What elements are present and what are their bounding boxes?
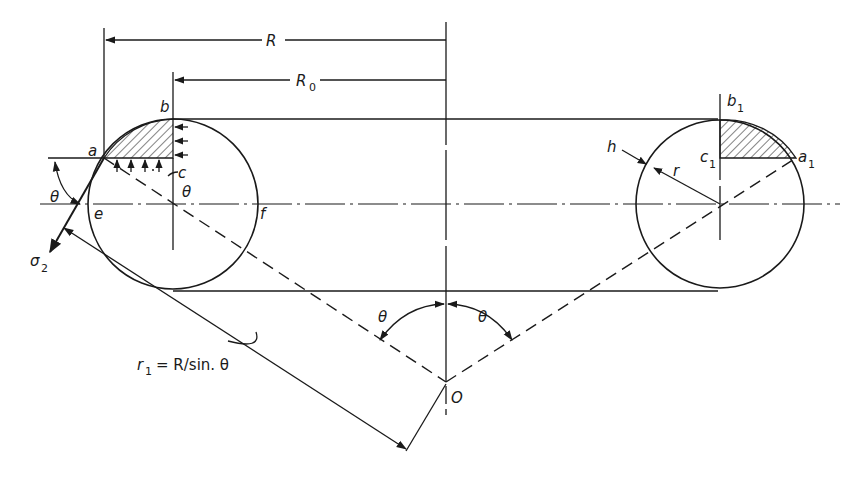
dimension-R0: R 0: [173, 72, 446, 119]
label-h: h: [607, 138, 617, 156]
label-R0-sub: 0: [309, 81, 316, 94]
label-theta-left: θ: [50, 188, 59, 206]
label-r1-sub: 1: [145, 365, 152, 378]
label-O: O: [451, 389, 463, 407]
label-R0: R: [296, 72, 306, 90]
hatched-region-a1b1c1: [720, 120, 796, 158]
radius-r-arrow: [654, 168, 720, 204]
label-a: a: [88, 142, 97, 160]
label-b: b: [160, 98, 170, 116]
hatched-region-abc: [104, 119, 173, 158]
dimension-r1: [64, 228, 446, 451]
label-b1-sub: 1: [737, 102, 744, 115]
label-r1-equation: = R/sin. θ: [156, 356, 229, 374]
dashed-line-O-to-a1: [446, 158, 796, 382]
label-theta-center: θ: [182, 183, 191, 201]
torus-stress-diagram: R R 0: [0, 0, 861, 482]
label-sigma-sub: 2: [41, 262, 48, 275]
label-e: e: [94, 205, 103, 223]
thickness-h-arrow: [622, 150, 646, 164]
label-c: c: [178, 164, 187, 182]
dashed-line-a-to-O: [104, 158, 446, 382]
label-r: r: [673, 162, 680, 180]
label-R: R: [266, 32, 276, 50]
label-theta-O-left: θ: [378, 308, 387, 326]
label-theta-O-right: θ: [478, 308, 487, 326]
label-a1: a: [798, 148, 807, 166]
label-a1-sub: 1: [808, 158, 815, 171]
label-c1-sub: 1: [709, 158, 716, 171]
pressure-arrows-bc: [175, 127, 188, 155]
label-c1: c: [700, 148, 709, 166]
label-sigma: σ: [30, 252, 40, 270]
label-f: f: [260, 205, 268, 223]
label-b1: b: [727, 92, 737, 110]
label-r1: r: [137, 356, 144, 374]
